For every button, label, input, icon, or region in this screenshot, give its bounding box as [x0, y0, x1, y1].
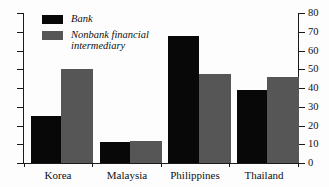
y-axis-label-50: 50: [308, 64, 319, 75]
bar-chart: 0 10 20 30 40 50 60 70 80 Korea Malaysia…: [0, 0, 329, 187]
y-tick-right-30: [298, 107, 305, 108]
legend-label-nonbank: Nonbank financial intermediary: [71, 29, 149, 52]
x-tick-2: [161, 163, 162, 167]
x-axis-label-philippines: Philippines: [170, 169, 220, 181]
legend-swatch-bank-icon: [42, 15, 63, 24]
y-tick-right-70: [298, 32, 305, 33]
y-tick-left-0: [17, 163, 24, 164]
bar-thailand-bank: [237, 90, 267, 163]
y-tick-right-80: [298, 13, 305, 14]
bar-malaysia-nonbank: [130, 141, 162, 163]
legend-label-bank: Bank: [71, 13, 93, 25]
x-axis-label-thailand: Thailand: [244, 169, 283, 181]
y-tick-right-40: [298, 88, 305, 89]
bar-malaysia-bank: [100, 142, 130, 163]
legend-label-nonbank-line2: intermediary: [71, 40, 149, 52]
y-tick-right-20: [298, 126, 305, 127]
y-axis-label-20: 20: [308, 121, 319, 132]
y-axis-label-70: 70: [308, 27, 319, 38]
y-tick-right-60: [298, 51, 305, 52]
x-tick-0: [24, 163, 25, 167]
x-tick-1: [92, 163, 93, 167]
x-tick-4: [298, 163, 299, 167]
y-axis-label-80: 80: [308, 8, 319, 19]
x-tick-3: [229, 163, 230, 167]
bar-philippines-bank: [168, 36, 199, 164]
bar-thailand-nonbank: [267, 77, 299, 163]
y-tick-right-10: [298, 144, 305, 145]
y-tick-right-50: [298, 69, 305, 70]
chart-legend: Bank Nonbank financial intermediary: [42, 13, 172, 56]
y-axis-label-40: 40: [308, 83, 319, 94]
x-axis-label-korea: Korea: [45, 169, 72, 181]
bar-korea-nonbank: [61, 69, 93, 163]
y-tick-right-0: [298, 163, 305, 164]
y-axis-label-60: 60: [308, 46, 319, 57]
y-axis-label-0: 0: [308, 158, 313, 169]
legend-item-nonbank: Nonbank financial intermediary: [42, 29, 172, 52]
legend-label-nonbank-line1: Nonbank financial: [71, 29, 149, 41]
legend-item-bank: Bank: [42, 13, 172, 25]
x-axis-label-malaysia: Malaysia: [107, 169, 147, 181]
legend-swatch-nonbank-icon: [42, 31, 63, 40]
y-axis-label-30: 30: [308, 102, 319, 113]
bar-philippines-nonbank: [199, 74, 231, 163]
y-axis-label-10: 10: [308, 139, 319, 150]
bar-korea-bank: [31, 116, 61, 163]
